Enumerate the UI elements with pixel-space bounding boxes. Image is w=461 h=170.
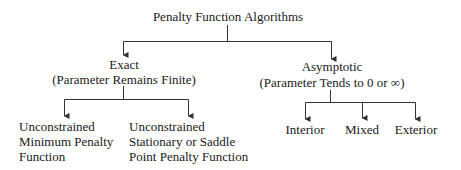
node-line: Minimum Penalty	[19, 134, 113, 149]
root-node: Penalty Function Algorithms	[153, 9, 303, 24]
node-exterior: Exterior	[395, 122, 438, 137]
node-line: Unconstrained	[129, 119, 248, 134]
node-mixed: Mixed	[345, 122, 379, 137]
node-line: Stationary or Saddle	[129, 134, 248, 149]
node-asymptotic-subtitle: (Parameter Tends to 0 or ∞)	[260, 75, 405, 90]
node-line: Point Penalty Function	[129, 149, 248, 164]
node-exact-title: Exact	[109, 57, 139, 72]
node-asymptotic-title: Asymptotic	[302, 59, 363, 74]
node-interior: Interior	[286, 122, 325, 137]
node-line: Unconstrained	[19, 119, 113, 134]
node-line: Function	[19, 149, 113, 164]
node-unconstrained-stationary: Unconstrained Stationary or Saddle Point…	[129, 119, 248, 164]
node-exact-subtitle: (Parameter Remains Finite)	[52, 72, 196, 87]
node-unconstrained-minimum: Unconstrained Minimum Penalty Function	[19, 119, 113, 164]
